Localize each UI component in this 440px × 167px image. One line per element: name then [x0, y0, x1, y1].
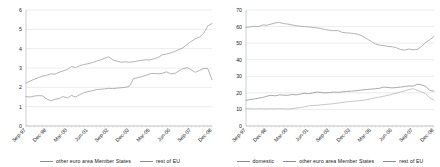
x-axis-tick-label: Mar-05	[135, 127, 151, 143]
x-axis-tick-label: Sep-02	[93, 127, 109, 143]
legend-line-swatch-icon	[140, 161, 153, 162]
x-axis-tick-label: Sep-07	[176, 127, 192, 143]
legend-line-swatch-icon	[383, 161, 396, 162]
legend-item-other-euro-area: other euro area Member States	[40, 158, 131, 164]
x-axis-tick-label: Dec-03	[335, 127, 351, 143]
x-axis-tick-label: Sep-02	[314, 127, 330, 143]
x-axis-tick-label: Dec-08	[197, 127, 213, 143]
legend-right: domestic other euro area Member States r…	[220, 158, 440, 164]
x-axis-tick-label: Dec-08	[419, 127, 435, 143]
y-axis-tick-label: 70	[236, 7, 242, 13]
x-axis-tick-label: Sep-97	[11, 127, 27, 143]
y-axis-tick-label: 5	[19, 26, 22, 32]
legend-left: other euro area Member States rest of EU	[0, 158, 220, 164]
x-axis-tick-label: Mar-00	[273, 127, 289, 143]
chart-panel-right: 010203040506070Sep-97Dec-98Mar-00Jun-01S…	[220, 0, 440, 167]
legend-item-other-euro-area: other euro area Member States	[283, 158, 374, 164]
x-axis-tick-label: Jun-06	[377, 127, 393, 143]
chart-panel-left-inner: 0123456Sep-97Dec-98Mar-00Jun-01Sep-02Dec…	[0, 0, 220, 167]
chart-panel-right-inner: 010203040506070Sep-97Dec-98Mar-00Jun-01S…	[220, 0, 440, 167]
x-axis-tick-label: Sep-97	[231, 127, 247, 143]
y-axis-tick-label: 6	[19, 7, 22, 13]
y-axis-tick-label: 60	[236, 24, 242, 30]
legend-item-rest-of-eu: rest of EU	[383, 158, 423, 164]
y-axis-tick-label: 50	[236, 40, 242, 46]
x-axis-tick-label: Jun-06	[156, 127, 172, 143]
dual-line-chart-figure: 0123456Sep-97Dec-98Mar-00Jun-01Sep-02Dec…	[0, 0, 440, 167]
line-chart-left: 0123456Sep-97Dec-98Mar-00Jun-01Sep-02Dec…	[0, 0, 220, 167]
legend-label: other euro area Member States	[56, 158, 131, 164]
y-axis-tick-label: 1	[19, 104, 22, 110]
legend-label: rest of EU	[156, 158, 180, 164]
data-series-line	[26, 68, 212, 101]
y-axis-tick-label: 40	[236, 57, 242, 63]
x-axis-tick-label: Jun-01	[294, 127, 310, 143]
x-axis-tick-label: Dec-03	[114, 127, 130, 143]
line-chart-right: 010203040506070Sep-97Dec-98Mar-00Jun-01S…	[220, 0, 440, 167]
legend-item-rest-of-eu: rest of EU	[140, 158, 180, 164]
x-axis-tick-label: Mar-00	[52, 127, 68, 143]
data-series-line	[26, 24, 212, 84]
x-axis-tick-label: Dec-98	[31, 127, 47, 143]
y-axis-tick-label: 20	[236, 90, 242, 96]
y-axis-tick-label: 4	[19, 46, 22, 52]
legend-label: domestic	[253, 158, 275, 164]
legend-item-domestic: domestic	[237, 158, 275, 164]
x-axis-tick-label: Mar-05	[356, 127, 372, 143]
legend-label: rest of EU	[399, 158, 423, 164]
y-axis-tick-label: 30	[236, 73, 242, 79]
legend-line-swatch-icon	[237, 161, 250, 162]
y-axis-tick-label: 3	[19, 65, 22, 71]
x-axis-tick-label: Sep-07	[398, 127, 414, 143]
y-axis-tick-label: 2	[19, 84, 22, 90]
data-series-line	[246, 84, 434, 100]
legend-line-swatch-icon	[283, 161, 296, 162]
x-axis-tick-label: Jun-01	[73, 127, 89, 143]
x-axis-tick-label: Dec-98	[252, 127, 268, 143]
chart-panel-left: 0123456Sep-97Dec-98Mar-00Jun-01Sep-02Dec…	[0, 0, 220, 167]
legend-line-swatch-icon	[40, 161, 53, 162]
y-axis-tick-label: 10	[236, 106, 242, 112]
legend-label: other euro area Member States	[299, 158, 374, 164]
